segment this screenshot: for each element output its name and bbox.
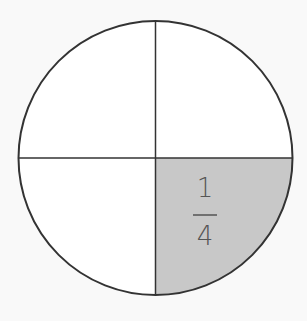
- shaded-quadrant: [156, 158, 293, 295]
- fraction-circle-diagram: 1 4: [0, 0, 307, 321]
- fraction-numerator: 1: [197, 173, 214, 203]
- fraction-denominator: 4: [197, 221, 214, 251]
